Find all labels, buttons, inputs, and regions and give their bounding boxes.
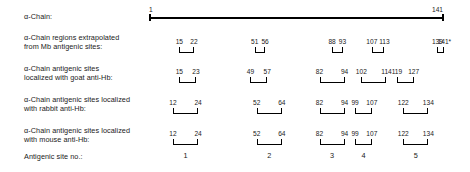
bracket-end-label-rabbit-anti-hb-4: 134: [423, 99, 434, 106]
bracket-end-label-goat-anti-hb-2: 94: [341, 68, 348, 75]
track-alpha-chain: 1141: [0, 6, 470, 30]
bracket-goat-anti-hb-2: [320, 77, 345, 83]
track-rabbit-anti-hb: 12245264829499107122134: [0, 97, 470, 121]
bracket-rabbit-anti-hb-2: [320, 108, 345, 114]
bracket-mouse-anti-hb-4: [403, 139, 428, 145]
antigenic-site-number-5: 5: [414, 152, 418, 160]
bracket-end-label-mb-extrapolated-1: 56: [261, 38, 268, 45]
bracket-end-label-rabbit-anti-hb-0: 24: [194, 99, 201, 106]
bracket-start-label-goat-anti-hb-2: 82: [316, 68, 323, 75]
antigenic-site-number-2: 2: [267, 152, 271, 160]
bracket-mb-extrapolated-1: [255, 47, 265, 53]
bracket-start-label-goat-anti-hb-0: 15: [176, 68, 183, 75]
chain-axis-line: [150, 17, 443, 19]
bracket-goat-anti-hb-4: [397, 77, 414, 83]
bracket-end-label-mouse-anti-hb-2: 94: [341, 130, 348, 137]
bracket-mouse-anti-hb-2: [320, 139, 345, 145]
bracket-goat-anti-hb-0: [179, 77, 196, 83]
bracket-end-label-mb-extrapolated-3: 113: [379, 38, 390, 45]
bracket-goat-anti-hb-1: [250, 77, 267, 83]
bracket-start-label-mouse-anti-hb-0: 12: [169, 130, 176, 137]
bracket-mouse-anti-hb-0: [173, 139, 198, 145]
bracket-start-label-rabbit-anti-hb-3: 99: [351, 99, 358, 106]
bracket-end-label-goat-anti-hb-3: 114: [381, 68, 392, 75]
bracket-start-label-rabbit-anti-hb-2: 82: [316, 99, 323, 106]
bracket-start-label-goat-anti-hb-1: 49: [247, 68, 254, 75]
bracket-end-label-goat-anti-hb-1: 57: [264, 68, 271, 75]
bracket-end-label-rabbit-anti-hb-3: 107: [366, 99, 377, 106]
bracket-start-label-rabbit-anti-hb-0: 12: [169, 99, 176, 106]
bracket-mb-extrapolated-0: [179, 47, 194, 53]
antigenic-site-number-3: 3: [330, 152, 334, 160]
bracket-start-label-mouse-anti-hb-1: 52: [253, 130, 260, 137]
bracket-rabbit-anti-hb-4: [403, 108, 428, 114]
chain-axis-cap-end: [442, 14, 444, 21]
bracket-end-label-mouse-anti-hb-4: 134: [423, 130, 434, 137]
bracket-start-label-mb-extrapolated-3: 107: [366, 38, 377, 45]
track-mouse-anti-hb: 12245264829499107122134: [0, 128, 470, 152]
chain-axis-cap-start: [149, 14, 151, 21]
bracket-start-label-mouse-anti-hb-2: 82: [316, 130, 323, 137]
bracket-start-label-rabbit-anti-hb-4: 122: [398, 99, 409, 106]
bracket-end-label-rabbit-anti-hb-1: 64: [278, 99, 285, 106]
bracket-start-label-mouse-anti-hb-3: 99: [351, 130, 358, 137]
bracket-end-label-mb-extrapolated-0: 22: [190, 38, 197, 45]
bracket-start-label-mb-extrapolated-2: 88: [328, 38, 335, 45]
bracket-start-label-goat-anti-hb-4: 119: [392, 68, 403, 75]
bracket-rabbit-anti-hb-1: [257, 108, 282, 114]
antigenic-site-number-4: 4: [361, 152, 365, 160]
bracket-end-label-goat-anti-hb-0: 23: [192, 68, 199, 75]
antigenic-site-number-1: 1: [184, 152, 188, 160]
bracket-end-label-mouse-anti-hb-0: 24: [194, 130, 201, 137]
bracket-start-label-goat-anti-hb-3: 102: [356, 68, 367, 75]
bracket-mb-extrapolated-2: [332, 47, 342, 53]
bracket-end-label-rabbit-anti-hb-2: 94: [341, 99, 348, 106]
bracket-mb-extrapolated-3: [372, 47, 385, 53]
bracket-mb-extrapolated-4: [437, 47, 444, 53]
bracket-mouse-anti-hb-3: [355, 139, 372, 145]
axis-tick-label-end: 141: [432, 6, 443, 13]
track-antigenic-site-no: 12345: [0, 150, 470, 172]
bracket-start-label-mouse-anti-hb-4: 122: [398, 130, 409, 137]
bracket-end-label-mb-extrapolated-4: 141*: [438, 38, 452, 45]
bracket-start-label-rabbit-anti-hb-1: 52: [253, 99, 260, 106]
track-goat-anti-hb: 152349578294102114119127: [0, 66, 470, 90]
bracket-rabbit-anti-hb-0: [173, 108, 198, 114]
bracket-start-label-mb-extrapolated-0: 15: [176, 38, 183, 45]
track-mb-extrapolated: 152251568893107113139141*: [0, 36, 470, 60]
bracket-end-label-mouse-anti-hb-1: 64: [278, 130, 285, 137]
bracket-goat-anti-hb-3: [361, 77, 386, 83]
bracket-end-label-mb-extrapolated-2: 93: [339, 38, 346, 45]
bracket-end-label-mouse-anti-hb-3: 107: [366, 130, 377, 137]
bracket-start-label-mb-extrapolated-1: 51: [251, 38, 258, 45]
bracket-end-label-goat-anti-hb-4: 127: [408, 68, 419, 75]
bracket-rabbit-anti-hb-3: [355, 108, 372, 114]
axis-tick-label-start: 1: [149, 6, 153, 13]
bracket-mouse-anti-hb-1: [257, 139, 282, 145]
alpha-chain-antigenic-sites-figure: α-Chain:1141α-Chain regions extrapolated…: [0, 0, 470, 172]
